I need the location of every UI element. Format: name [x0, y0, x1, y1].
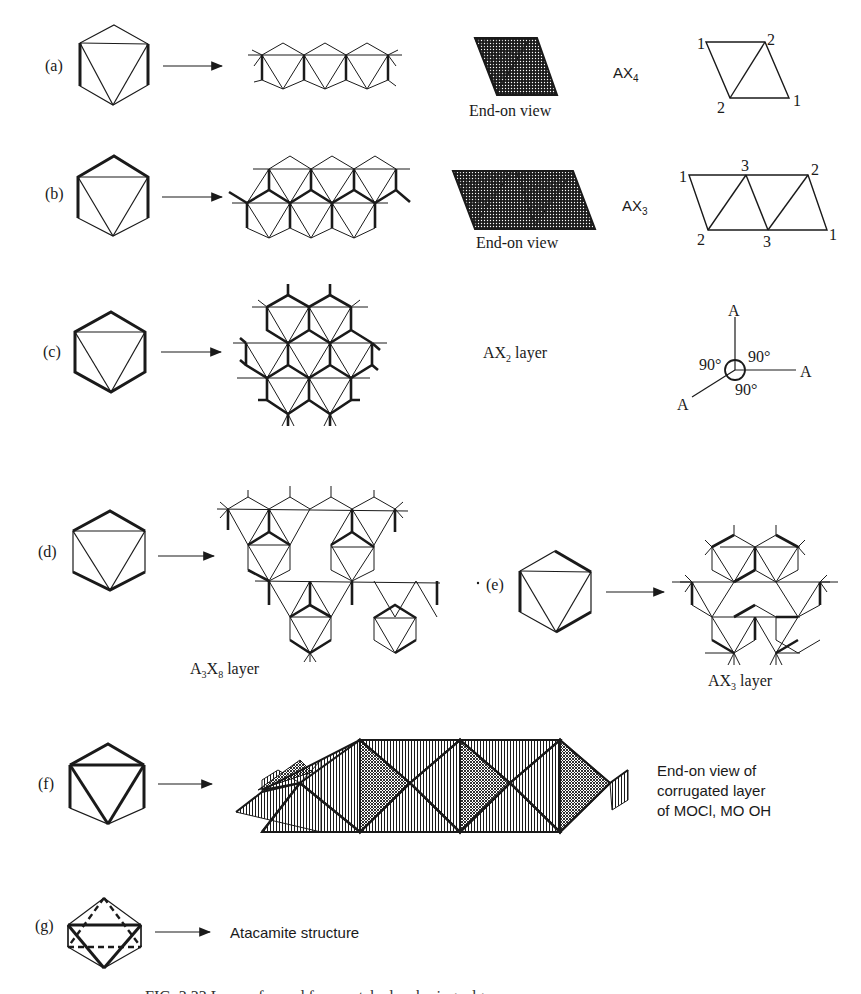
atom-label: A — [728, 302, 740, 319]
panel-label-a: (a) — [45, 57, 63, 75]
strip-schematic-b — [689, 175, 827, 230]
vertex-label: 1 — [829, 226, 837, 243]
vertex-label: 3 — [741, 157, 749, 174]
vertex-label: 2 — [767, 31, 775, 48]
end-on-caption-a: End-on view — [469, 102, 552, 119]
octahedron-icon — [80, 25, 148, 105]
panel-label-d: (d) — [38, 543, 57, 561]
angle-label: 90° — [735, 381, 757, 398]
vertex-label: 2 — [697, 231, 705, 248]
panel-g: (g) Atacamite structure — [35, 898, 359, 968]
formula-b: AX3 — [622, 197, 648, 217]
octahedron-icon — [78, 156, 148, 236]
result-label-g: Atacamite structure — [230, 924, 359, 941]
angle-label: 90° — [699, 356, 721, 373]
atom-label: A — [800, 363, 812, 380]
panel-d: (d) — [38, 486, 440, 680]
panel-label-g: (g) — [35, 917, 54, 935]
octahedron-icon — [73, 511, 145, 590]
formula-a: AX4 — [613, 64, 639, 84]
panel-b: (b) — [45, 156, 837, 251]
double-chain-diagram-b — [229, 156, 410, 238]
panel-e: (e) AX3 layer — [477, 525, 838, 692]
sheet-diagram-d — [217, 486, 440, 662]
description-line-3: of MOCl, MO OH — [657, 802, 771, 819]
chain-diagram-a — [248, 43, 402, 89]
sheet-diagram-e — [672, 525, 838, 665]
panel-a: (a) End-on view — [45, 25, 801, 119]
description-line-2: corrugated layer — [657, 782, 765, 799]
corrugated-layer-diagram-f — [236, 740, 628, 832]
atom-label: A — [677, 396, 689, 413]
vertex-label: 1 — [697, 35, 705, 52]
rhombus-schematic-a — [706, 42, 789, 98]
figure-caption: FIG. 3.33 Layers formed from octahedra s… — [145, 984, 501, 994]
panel-label-f: (f) — [38, 775, 54, 793]
panel-f: (f) End-on — [38, 740, 771, 832]
layer-caption-e: AX3 layer — [708, 672, 773, 692]
end-on-caption-b: End-on view — [476, 234, 559, 251]
panel-label-e: (e) — [486, 576, 504, 594]
octahedron-dashed-icon — [68, 898, 141, 968]
layer-caption-d: A3X8 layer — [190, 660, 260, 680]
sheet-diagram-c — [233, 284, 387, 426]
octahedron-icon — [520, 551, 591, 632]
angle-label: 90° — [748, 348, 770, 365]
vertex-label: 2 — [811, 161, 819, 178]
figure-canvas: (a) End-on view — [0, 0, 861, 994]
layer-caption-c: AX2 layer — [483, 344, 548, 364]
description-line-1: End-on view of — [657, 762, 757, 779]
panel-label-c: (c) — [43, 343, 61, 361]
end-on-view-a: End-on view — [469, 38, 557, 119]
vertex-label: 1 — [679, 168, 687, 185]
panel-label-b: (b) — [45, 185, 64, 203]
octahedron-icon — [70, 744, 144, 824]
panel-c: (c) — [43, 284, 812, 426]
stray-dot — [477, 582, 479, 584]
end-on-view-b: End-on view — [453, 171, 595, 251]
vertex-label: 3 — [763, 233, 771, 250]
octahedron-icon — [75, 312, 145, 392]
vertex-label: 1 — [793, 92, 801, 109]
vertex-label: 2 — [717, 99, 725, 116]
